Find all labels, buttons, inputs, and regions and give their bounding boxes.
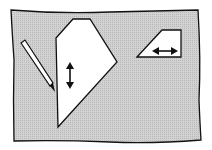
diagram-canvas — [0, 0, 212, 150]
